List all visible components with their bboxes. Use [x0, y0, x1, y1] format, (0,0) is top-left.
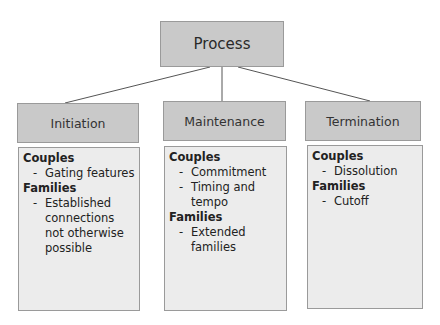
group-title: Couples [23, 151, 135, 166]
list-item: -Gating features [23, 166, 135, 181]
maintenance-body: Couples -Commitment -Timing and tempo Fa… [164, 146, 287, 311]
bullet-dash: - [169, 225, 191, 255]
termination-label: Termination [326, 114, 399, 129]
bullet-dash: - [312, 164, 334, 179]
connector-termination [238, 67, 370, 101]
initiation-body: Couples -Gating features Families -Estab… [18, 147, 140, 311]
initiation-label: Initiation [50, 116, 105, 131]
bullet-dash: - [169, 165, 191, 180]
list-item: -Established connections not otherwise p… [23, 196, 135, 256]
maintenance-label: Maintenance [184, 114, 265, 129]
maintenance-header: Maintenance [163, 101, 286, 141]
bullet-dash: - [312, 194, 334, 209]
group-title: Families [312, 179, 418, 194]
list-item: -Cutoff [312, 194, 418, 209]
list-item: -Timing and tempo [169, 180, 282, 210]
bullet-dash: - [169, 180, 191, 210]
list-item: -Commitment [169, 165, 282, 180]
group-title: Families [169, 210, 282, 225]
group-title: Couples [312, 149, 418, 164]
termination-header: Termination [305, 101, 421, 141]
bullet-dash: - [23, 196, 45, 256]
process-label: Process [194, 35, 251, 53]
group-title: Couples [169, 150, 282, 165]
list-item: -Extended families [169, 225, 282, 255]
group-title: Families [23, 181, 135, 196]
bullet-dash: - [23, 166, 45, 181]
process-node: Process [160, 21, 284, 67]
initiation-header: Initiation [17, 103, 139, 143]
connector-initiation [65, 67, 210, 103]
termination-body: Couples -Dissolution Families -Cutoff [307, 145, 423, 309]
list-item: -Dissolution [312, 164, 418, 179]
